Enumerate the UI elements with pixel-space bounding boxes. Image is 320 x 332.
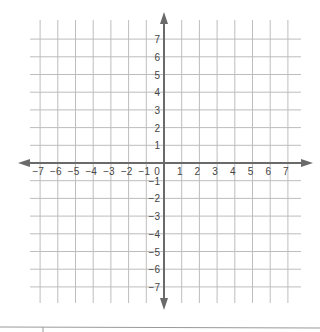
x-tick-label: −6 [50, 166, 62, 177]
y-tick-label: −7 [149, 282, 161, 293]
y-tick-label: −4 [149, 229, 161, 240]
y-tick-label: 2 [154, 123, 160, 134]
y-tick-label: 6 [154, 52, 160, 63]
x-tick-label: 6 [265, 166, 271, 177]
y-axis-down-arrow-icon [160, 298, 168, 310]
grid-lines [30, 20, 301, 303]
y-tick-label: −6 [149, 264, 161, 275]
coordinate-plane: −7−6−5−4−3−2−1123456707654321−1−2−3−4−5−… [0, 0, 320, 332]
y-tick-label: −2 [149, 193, 161, 204]
x-tick-label: 1 [177, 166, 183, 177]
x-tick-label: −5 [68, 166, 80, 177]
x-tick-label: 2 [195, 166, 201, 177]
y-tick-label: −3 [149, 211, 161, 222]
y-tick-label: 1 [154, 140, 160, 151]
y-tick-label: −1 [149, 176, 161, 187]
page-bottom-rule [0, 327, 320, 328]
x-tick-label: −2 [121, 166, 133, 177]
y-tick-label: 5 [154, 70, 160, 81]
y-tick-label: 4 [154, 87, 160, 98]
y-tick-label: 3 [154, 105, 160, 116]
x-tick-label: −4 [85, 166, 97, 177]
x-tick-label: −3 [103, 166, 115, 177]
x-tick-label: −7 [32, 166, 44, 177]
y-axis-up-arrow-icon [160, 12, 168, 24]
x-tick-label: 7 [283, 166, 289, 177]
x-tick-label: 4 [230, 166, 236, 177]
x-axis-right-arrow-icon [301, 159, 313, 167]
x-tick-label: 3 [212, 166, 218, 177]
x-axis-left-arrow-icon [18, 159, 30, 167]
x-tick-label: 5 [248, 166, 254, 177]
y-tick-label: −5 [149, 247, 161, 258]
y-tick-label: 7 [154, 34, 160, 45]
